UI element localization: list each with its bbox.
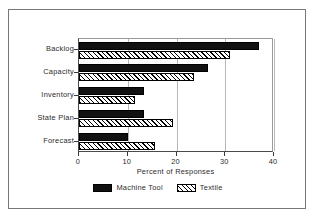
x-tick-label: 10 <box>115 157 139 166</box>
chart-figure: BacklogCapacityInventoryState PlanForeca… <box>0 0 316 217</box>
y-tick-mark <box>74 49 78 50</box>
bar-inventory-textile <box>79 96 135 104</box>
bar-group <box>79 62 272 85</box>
x-tick-mark <box>176 152 177 156</box>
legend-swatch-icon <box>177 184 196 192</box>
bar-forecast-textile <box>79 142 155 150</box>
bar-state-plan-textile <box>79 119 173 127</box>
bar-capacity-textile <box>79 73 194 81</box>
bar-capacity-machine-tool <box>79 64 208 72</box>
legend-entry-machine-tool: Machine Tool <box>93 183 162 192</box>
x-tick-mark <box>127 152 128 156</box>
y-tick-label-backlog: Backlog <box>14 44 74 53</box>
legend-entry-textile: Textile <box>177 183 223 192</box>
y-tick-mark <box>74 95 78 96</box>
x-axis-title: Percent of Responses <box>78 167 273 176</box>
bar-backlog-machine-tool <box>79 42 259 50</box>
legend-swatch-icon <box>93 184 112 192</box>
x-tick-mark <box>78 152 79 156</box>
x-tick-label: 30 <box>212 157 236 166</box>
x-tick-mark <box>273 152 274 156</box>
x-tick-mark <box>224 152 225 156</box>
legend-label: Machine Tool <box>116 183 162 192</box>
bar-backlog-textile <box>79 51 230 59</box>
y-tick-label-forecast: Forecast <box>14 136 74 145</box>
y-tick-label-state-plan: State Plan <box>14 113 74 122</box>
bar-group <box>79 85 272 108</box>
y-tick-mark <box>74 118 78 119</box>
plot-area <box>78 38 273 152</box>
x-tick-label: 0 <box>66 157 90 166</box>
bar-group <box>79 39 272 62</box>
legend-label: Textile <box>200 183 223 192</box>
bar-group <box>79 130 272 153</box>
bar-state-plan-machine-tool <box>79 110 144 118</box>
bar-forecast-machine-tool <box>79 133 128 141</box>
y-tick-label-inventory: Inventory <box>14 90 74 99</box>
x-tick-label: 40 <box>261 157 285 166</box>
bar-group <box>79 107 272 130</box>
bar-inventory-machine-tool <box>79 87 144 95</box>
chart-legend: Machine ToolTextile <box>0 183 316 192</box>
gridline <box>274 39 275 151</box>
y-tick-mark <box>74 72 78 73</box>
y-tick-mark <box>74 141 78 142</box>
y-tick-label-capacity: Capacity <box>14 67 74 76</box>
x-tick-label: 20 <box>164 157 188 166</box>
